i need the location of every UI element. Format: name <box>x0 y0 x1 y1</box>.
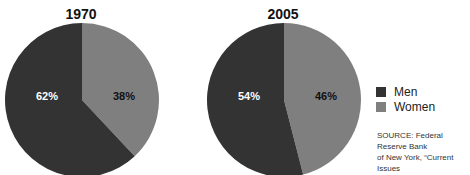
pie-label-women-2005: 46% <box>315 90 337 102</box>
source-line: SOURCE: Federal Reserve Bank <box>377 130 470 152</box>
legend-swatch-men <box>376 87 386 97</box>
legend-label-women: Women <box>394 100 435 114</box>
source-line: in Economics and Finance,” <box>377 174 470 175</box>
pie-chart-2005: 54% 46% <box>204 20 364 175</box>
legend-item-men: Men <box>376 84 435 99</box>
legend: Men Women <box>376 84 435 114</box>
pie-label-men-2005: 54% <box>238 90 260 102</box>
legend-item-women: Women <box>376 99 435 114</box>
legend-swatch-women <box>376 102 386 112</box>
legend-label-men: Men <box>394 85 417 99</box>
pie-chart-1970: 62% 38% <box>2 20 162 175</box>
source-line: of New York, “Current Issues <box>377 152 470 174</box>
pie-label-women-1970: 38% <box>113 90 135 102</box>
pie-label-men-1970: 62% <box>36 90 58 102</box>
source-note: SOURCE: Federal Reserve Bank of New York… <box>377 130 470 175</box>
